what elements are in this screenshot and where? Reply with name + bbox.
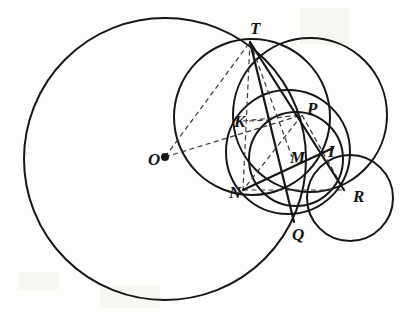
point-dot-O [161, 153, 169, 161]
circles-layer [24, 18, 393, 300]
geometry-figure [0, 0, 413, 316]
point-label-P: P [307, 100, 317, 117]
point-label-O: O [148, 151, 160, 168]
point-label-M: M [290, 149, 305, 166]
dashed-K-P [243, 115, 302, 121]
point-dots-layer [161, 153, 169, 161]
point-label-Q: Q [292, 226, 304, 243]
point-label-K: K [234, 113, 245, 130]
diagram-page: OTKPMINQR [0, 0, 413, 316]
point-label-R: R [353, 188, 364, 205]
point-label-I: I [328, 143, 335, 160]
circle-R-small [307, 155, 393, 241]
point-label-N: N [229, 184, 241, 201]
point-label-T: T [250, 20, 260, 37]
